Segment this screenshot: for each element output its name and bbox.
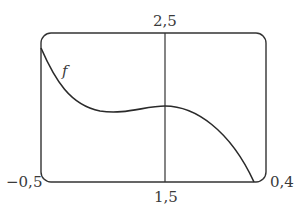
- y-max-label: 2,5: [153, 14, 177, 29]
- curve-label: f: [62, 64, 68, 79]
- x-min-label: −0,5: [6, 175, 42, 190]
- y-min-label: 1,5: [154, 190, 178, 205]
- x-max-label: 0,4: [270, 175, 294, 190]
- curve-f: [41, 48, 254, 182]
- plot-area: [0, 0, 296, 210]
